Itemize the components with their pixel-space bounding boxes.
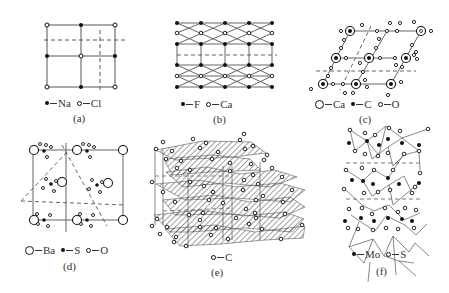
legend-b: F Ca [181,98,232,110]
open-dot-icon [206,102,211,107]
caption-c: (c) [359,113,371,125]
panel-b-atoms [175,21,274,89]
legend-label-ca: Ca [220,98,232,110]
filled-dot-icon [61,248,65,252]
panel-a-nacl-lattice [44,25,125,92]
legend-e: C [211,251,232,263]
caption-a: (a) [73,112,85,124]
caption-e: (e) [211,266,223,278]
legend-label-ca: Ca [333,98,345,110]
legend-label-cl: Cl [91,97,101,109]
filled-dot-icon [181,102,185,106]
panel-d-atoms [30,143,128,228]
legend-d: Ba S O [25,244,108,256]
filled-dot-icon [45,101,49,105]
legend-f: Mo S [352,248,406,260]
legend-label-c: C [225,251,232,263]
panel-e-graphite-layers [150,132,305,248]
filled-dot-icon [352,252,356,256]
legend-label-s: S [400,248,406,260]
legend-label-f: F [194,98,200,110]
caption-b: (b) [213,113,226,125]
filled-dot-icon [351,102,355,106]
open-dot-icon [386,252,391,257]
open-dot-icon [77,101,82,106]
legend-c: Ca C O [315,98,400,110]
legend-a: Na Cl [45,97,101,109]
legend-label-ba: Ba [43,244,55,256]
caption-f: (f) [376,265,387,277]
open-dot-icon [378,102,383,107]
legend-label-o: O [392,98,400,110]
open-dot-icon [86,248,91,253]
large-open-circle-icon [25,246,34,255]
open-dot-icon [211,255,216,260]
legend-label-c: C [364,98,371,110]
legend-label-na: Na [58,97,71,109]
legend-label-s: S [74,244,80,256]
legend-label-mo: Mo [365,248,380,260]
caption-d: (d) [63,260,76,272]
legend-label-o: O [100,244,108,256]
panel-c-atoms [309,20,432,96]
large-open-circle-icon [315,100,324,109]
